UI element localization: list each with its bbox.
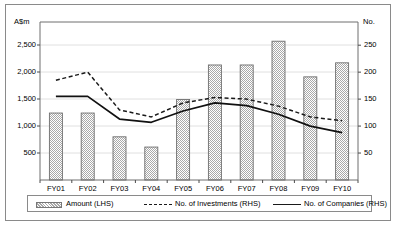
line-series-companies (56, 96, 342, 132)
chart-legend: Amount (LHS) No. of Investments (RHS) No… (27, 195, 372, 212)
legend-label-amount: Amount (LHS) (66, 199, 114, 208)
dashed-line-swatch-icon (144, 204, 172, 205)
bar-series-amount (49, 41, 348, 180)
plot-area (0, 0, 397, 226)
hatched-bar-swatch-icon (36, 202, 62, 208)
line-series-investments (56, 72, 342, 121)
legend-label-investments: No. of Investments (RHS) (175, 199, 260, 208)
solid-line-swatch-icon (273, 204, 301, 205)
legend-label-companies: No. of Companies (RHS) (304, 199, 387, 208)
chart-figure: A$m No. 5001,0001,5002,0002,500 50100150… (0, 0, 397, 226)
